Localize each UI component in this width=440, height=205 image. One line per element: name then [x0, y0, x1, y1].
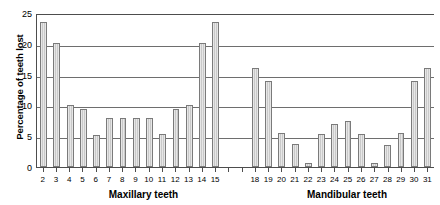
bar-slot: [143, 15, 156, 167]
bar: [120, 118, 127, 167]
bar-slot: [421, 15, 434, 167]
bar-slot: [63, 15, 76, 167]
bar: [292, 144, 299, 167]
x-tick: [195, 168, 208, 173]
x-tick-label: 27: [368, 174, 381, 186]
x-tick: [102, 168, 115, 173]
x-tick-label: 26: [354, 174, 367, 186]
x-tick: [407, 168, 420, 173]
bar: [159, 134, 166, 167]
bar-slot: [196, 15, 209, 167]
x-tick: [235, 168, 248, 173]
x-tick: [394, 168, 407, 173]
bar-slot: [249, 15, 262, 167]
bar: [53, 43, 60, 167]
x-tick: [354, 168, 367, 173]
x-tick: [36, 168, 49, 173]
x-tick-label: 25: [341, 174, 354, 186]
x-tick-label: 29: [394, 174, 407, 186]
bar: [424, 68, 431, 167]
bar: [199, 43, 206, 167]
bar-slot: [116, 15, 129, 167]
x-tick: [421, 168, 434, 173]
bar-series: [37, 15, 434, 167]
bar: [67, 105, 74, 167]
x-tick: [288, 168, 301, 173]
x-tick: [116, 168, 129, 173]
bar-slot: [90, 15, 103, 167]
bar-slot: [156, 15, 169, 167]
bar: [331, 124, 338, 167]
bar-slot: [394, 15, 407, 167]
x-tick-label: 4: [63, 174, 76, 186]
x-tick-label: 10: [142, 174, 155, 186]
bar: [106, 118, 113, 167]
y-tick-label: 5: [16, 133, 32, 142]
bar-slot: [328, 15, 341, 167]
bar: [93, 135, 100, 167]
bar-slot: [368, 15, 381, 167]
x-axis-group-title-maxillary: Maxillary teeth: [36, 188, 251, 202]
x-tick-label: 7: [102, 174, 115, 186]
bar-slot: [288, 15, 301, 167]
bar-chart: Percentage of teeth lost 0510152025 2345…: [0, 0, 440, 205]
x-axis-ticks: [36, 168, 434, 173]
x-tick: [169, 168, 182, 173]
x-tick-label: 11: [155, 174, 168, 186]
x-tick: [182, 168, 195, 173]
bar: [186, 105, 193, 167]
x-tick: [63, 168, 76, 173]
x-tick: [368, 168, 381, 173]
bar: [398, 133, 405, 167]
x-tick-label: 6: [89, 174, 102, 186]
x-tick: [76, 168, 89, 173]
x-tick-label: [222, 174, 235, 186]
x-tick-label: 12: [169, 174, 182, 186]
x-tick: [341, 168, 354, 173]
x-tick-label: 13: [182, 174, 195, 186]
x-axis-group-title-mandibular: Mandibular teeth: [260, 188, 434, 202]
x-tick-label: 21: [288, 174, 301, 186]
x-tick: [315, 168, 328, 173]
x-tick-label: 5: [76, 174, 89, 186]
x-tick-label: [235, 174, 248, 186]
bar-slot: [50, 15, 63, 167]
bar: [411, 81, 418, 167]
bar: [345, 121, 352, 167]
y-axis-tick-labels: 0510152025: [16, 0, 32, 205]
bar: [212, 22, 219, 167]
x-tick: [381, 168, 394, 173]
bar-slot: [262, 15, 275, 167]
bar-slot: [209, 15, 222, 167]
bar-slot: [130, 15, 143, 167]
x-tick: [262, 168, 275, 173]
bar: [252, 68, 259, 167]
x-tick-label: 22: [301, 174, 314, 186]
y-tick-label: 0: [16, 164, 32, 173]
x-tick-label: 23: [315, 174, 328, 186]
x-tick-label: 19: [262, 174, 275, 186]
x-tick: [142, 168, 155, 173]
x-tick: [248, 168, 261, 173]
bar-slot: [169, 15, 182, 167]
bar-slot: [302, 15, 315, 167]
y-tick-label: 15: [16, 71, 32, 80]
plot-area: [36, 14, 434, 168]
x-tick-label: 15: [208, 174, 221, 186]
x-tick-label: 3: [49, 174, 62, 186]
x-tick-label: 2: [36, 174, 49, 186]
x-tick: [208, 168, 221, 173]
x-tick: [275, 168, 288, 173]
x-tick-label: 31: [421, 174, 434, 186]
bar: [305, 163, 312, 167]
x-tick: [301, 168, 314, 173]
y-tick-label: 25: [16, 10, 32, 19]
bar: [146, 118, 153, 167]
bar-slot: [236, 15, 249, 167]
bar: [278, 133, 285, 167]
bar: [384, 145, 391, 167]
bar-slot: [275, 15, 288, 167]
bar: [371, 163, 378, 167]
x-tick: [129, 168, 142, 173]
x-tick-label: 8: [116, 174, 129, 186]
